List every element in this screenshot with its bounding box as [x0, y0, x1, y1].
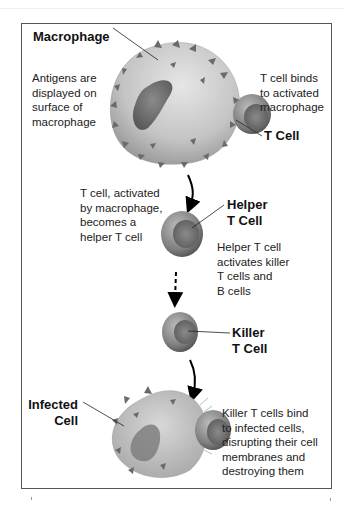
helper-leader-line	[192, 205, 224, 228]
caption-helper-activates: Helper T cell activates killer T cells a…	[217, 240, 289, 298]
caption-t-cell-activated: T cell, activated by macrophage, becomes…	[80, 186, 162, 244]
label-macrophage: Macrophage	[33, 29, 110, 45]
scan-mark	[31, 497, 32, 500]
arrow-helper-to-killer	[175, 272, 176, 300]
caption-antigens: Antigens are displayed on surface of mac…	[32, 71, 97, 129]
label-helper-t-cell: Helper T Cell	[227, 197, 267, 229]
label-killer-t-cell: Killer T Cell	[232, 325, 267, 357]
infected-leader-line	[83, 402, 124, 426]
helper-t-cell	[161, 211, 203, 257]
caption-t-cell-binds: T cell binds to activated macrophage	[260, 71, 324, 115]
caption-killer-binds: Killer T cells bind to infected cells, d…	[222, 406, 318, 479]
macrophage-cell	[110, 40, 240, 168]
killer-t-cell	[162, 312, 198, 352]
arrow-macrophage-to-helper	[188, 175, 193, 206]
label-t-cell: T Cell	[264, 128, 299, 144]
scan-mark	[330, 498, 331, 501]
arrow-killer-to-infected	[190, 360, 195, 395]
label-infected-cell: Infected Cell	[26, 397, 78, 429]
